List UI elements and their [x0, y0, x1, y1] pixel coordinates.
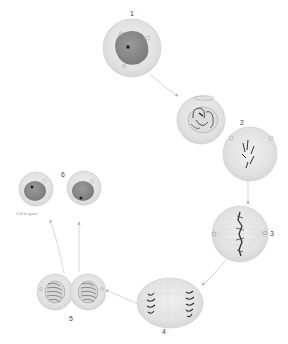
- mitosis-diagram: 1 2 3 4 5 6 Cell to grow: [0, 0, 288, 344]
- stage-label-4: 4: [162, 328, 166, 335]
- daughter-caption: Cell to grow: [16, 211, 37, 216]
- stage-2-prophase: [177, 96, 225, 144]
- stage-6-daughter-cells: [19, 171, 101, 206]
- stage-label-2: 2: [240, 119, 244, 126]
- arrow-1-to-2: [150, 74, 178, 96]
- stage-3-metaphase: [212, 206, 268, 262]
- diagram-canvas: [0, 0, 288, 344]
- stage-1-interphase: [103, 19, 161, 77]
- stage-2b-prometaphase: [223, 127, 277, 181]
- arrow-5-to-6a: [50, 220, 64, 273]
- stage-label-3: 3: [270, 230, 274, 237]
- stage-4-anaphase: [137, 278, 203, 328]
- stage-5-telophase: [37, 274, 106, 310]
- arrow-3-to-4: [202, 259, 226, 285]
- stage-label-1: 1: [130, 10, 134, 17]
- stage-label-6: 6: [61, 171, 65, 178]
- stage-label-5: 5: [69, 315, 73, 322]
- arrow-4-to-5: [106, 290, 138, 304]
